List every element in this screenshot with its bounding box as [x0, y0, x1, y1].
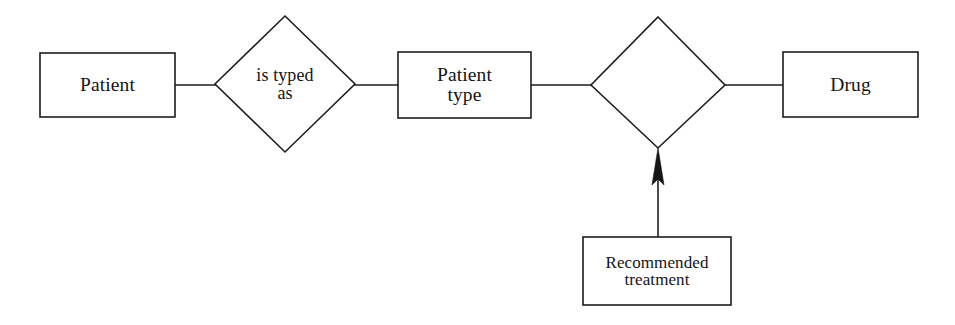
relationship-diamond-is-typed-as[interactable] — [215, 16, 355, 152]
entity-box-patient-type[interactable] — [398, 52, 531, 118]
entity-box-drug[interactable] — [783, 52, 918, 117]
er-diagram-canvas: Patient is typed as Patient type Drug Re… — [0, 0, 955, 325]
entity-box-recommended-treatment[interactable] — [583, 237, 731, 305]
entity-box-patient[interactable] — [40, 53, 175, 117]
diagram-vector-layer — [0, 0, 955, 325]
relationship-diamond-unlabeled[interactable] — [591, 17, 725, 148]
